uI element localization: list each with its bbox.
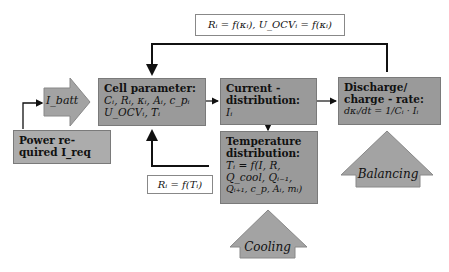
current-distribution-title2: distribution:: [226, 94, 311, 106]
discharge-title1: Discharge/: [344, 81, 435, 93]
power-required-line1: Power re-: [19, 134, 105, 146]
top-formula-text: Rᵢ = f(κᵢ), U_OCVᵢ = f(κᵢ): [208, 19, 332, 30]
top-formula-box: Rᵢ = f(κᵢ), U_OCVᵢ = f(κᵢ): [195, 14, 345, 36]
ibatt-label: I_batt: [46, 94, 74, 107]
discharge-title2: charge - rate:: [344, 93, 435, 105]
cell-parameter-line1: Cᵢ, Rᵢ, κᵢ, Aᵢ, c_pᵢ: [104, 94, 200, 106]
cell-parameter-box: Cell parameter: Cᵢ, Rᵢ, κᵢ, Aᵢ, c_pᵢ U_O…: [98, 78, 206, 126]
cell-parameter-line2: U_OCVᵢ, Tᵢ: [104, 106, 200, 118]
balancing-label: Balancing: [356, 167, 420, 181]
temperature-line1: Tᵢ = f(I, R,: [226, 159, 312, 171]
power-to-ibatt-arrow: [23, 103, 42, 129]
cell-parameter-title: Cell parameter:: [104, 82, 200, 94]
temperature-line3: Qᵢ₊₁, c_p, Aᵢ, mᵢ): [226, 183, 312, 195]
temperature-feedback-formula-box: Rᵢ = f(Tᵢ): [147, 175, 213, 194]
current-distribution-box: Current - distribution: Iᵢ: [220, 78, 317, 125]
temperature-line2: Q_cool, Qᵢ₋₁,: [226, 171, 312, 183]
current-distribution-line1: Iᵢ: [226, 106, 311, 118]
power-required-box: Power re- quired I_req: [13, 130, 111, 164]
temperature-feedback-arrow: [152, 131, 209, 166]
discharge-formula: dκᵢ/dt = 1/Cᵢ · Iᵢ: [344, 105, 435, 117]
cooling-label: Cooling: [240, 240, 295, 254]
temperature-title2: distribution:: [226, 147, 312, 159]
discharge-rate-box: Discharge/ charge - rate: dκᵢ/dt = 1/Cᵢ …: [338, 77, 441, 125]
feedback-loop-top-arrow: [152, 44, 387, 74]
current-distribution-title1: Current -: [226, 82, 311, 94]
temperature-distribution-box: Temperature distribution: Tᵢ = f(I, R, Q…: [220, 131, 318, 204]
temperature-feedback-formula-text: Rᵢ = f(Tᵢ): [158, 179, 202, 190]
power-required-line2: quired I_req: [19, 146, 105, 158]
temperature-title1: Temperature: [226, 135, 312, 147]
